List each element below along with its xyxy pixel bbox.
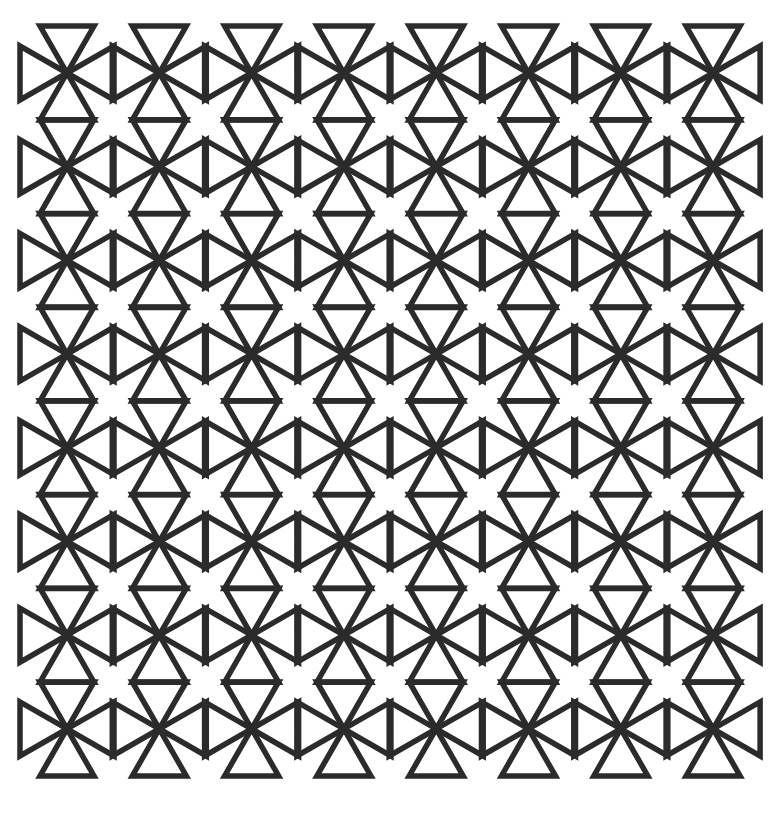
triangle-shape	[344, 608, 391, 662]
triangle-shape	[594, 682, 648, 729]
triangle-shape	[317, 260, 371, 307]
triangle-shape	[594, 401, 648, 448]
triangle-shape	[502, 635, 556, 682]
triangle-shape	[344, 702, 391, 756]
triangle-shape	[409, 167, 463, 214]
triangle-shape	[594, 167, 648, 214]
triangle-shape	[225, 401, 279, 448]
triangle-shape	[529, 46, 576, 100]
triangle-shape	[225, 495, 279, 542]
triangle-shape	[409, 401, 463, 448]
triangle-shape	[112, 702, 159, 756]
triangle-shape	[132, 213, 186, 260]
triangle-shape	[297, 421, 344, 475]
triangle-shape	[502, 682, 556, 729]
triangle-shape	[686, 167, 740, 214]
triangle-shape	[482, 702, 529, 756]
triangle-shape	[482, 233, 529, 287]
triangle-shape	[574, 46, 621, 100]
triangle-shape	[205, 702, 252, 756]
triangle-shape	[686, 635, 740, 682]
triangle-shape	[225, 167, 279, 214]
triangle-shape	[132, 729, 186, 776]
triangle-shape	[594, 354, 648, 401]
triangle-shape	[317, 682, 371, 729]
triangle-shape	[20, 327, 67, 381]
triangle-shape	[112, 515, 159, 569]
triangle-shape	[112, 608, 159, 662]
triangle-shape	[132, 73, 186, 120]
triangle-shape	[436, 702, 483, 756]
triangle-shape	[686, 401, 740, 448]
triangle-shape	[502, 307, 556, 354]
triangle-shape	[409, 213, 463, 260]
triangle-shape	[409, 307, 463, 354]
triangle-shape	[40, 635, 94, 682]
triangle-shape	[159, 608, 206, 662]
triangle-shape	[502, 495, 556, 542]
triangle-shape	[574, 140, 621, 194]
triangle-shape	[132, 260, 186, 307]
triangle-shape	[409, 635, 463, 682]
triangle-shape	[502, 729, 556, 776]
triangle-shape	[502, 354, 556, 401]
triangle-shape	[409, 542, 463, 589]
triangle-shape	[686, 682, 740, 729]
triangle-shape	[666, 46, 713, 100]
triangle-shape	[40, 448, 94, 495]
triangle-shape	[482, 421, 529, 475]
triangle-shape	[40, 401, 94, 448]
triangle-shape	[225, 26, 279, 73]
triangle-shape	[67, 515, 114, 569]
triangle-shape	[594, 307, 648, 354]
triangle-shape	[502, 120, 556, 167]
triangle-shape	[502, 73, 556, 120]
triangle-shape	[389, 46, 436, 100]
triangle-shape	[317, 26, 371, 73]
triangle-shape	[502, 588, 556, 635]
triangle-shape	[225, 448, 279, 495]
triangle-shape	[317, 495, 371, 542]
triangle-shape	[20, 46, 67, 100]
triangle-shape	[713, 608, 760, 662]
triangle-shape	[436, 515, 483, 569]
triangle-shape	[20, 140, 67, 194]
triangle-shape	[594, 213, 648, 260]
triangle-shape	[40, 542, 94, 589]
triangle-shape	[317, 167, 371, 214]
triangle-shape	[574, 515, 621, 569]
triangle-shape	[594, 542, 648, 589]
triangle-shape	[225, 635, 279, 682]
triangle-shape	[132, 307, 186, 354]
triangle-shape	[621, 421, 668, 475]
triangle-shape	[686, 213, 740, 260]
triangle-shape	[132, 26, 186, 73]
triangle-shape	[409, 354, 463, 401]
triangle-shape	[686, 542, 740, 589]
triangle-shape	[225, 73, 279, 120]
triangle-shape	[594, 260, 648, 307]
triangle-shape	[225, 213, 279, 260]
triangle-shape	[40, 682, 94, 729]
triangle-shape	[529, 327, 576, 381]
triangle-shape	[225, 542, 279, 589]
triangle-shape	[713, 515, 760, 569]
triangle-shape	[225, 260, 279, 307]
triangle-shape	[621, 702, 668, 756]
triangle-shape	[389, 421, 436, 475]
triangle-shape	[252, 46, 299, 100]
triangle-shape	[686, 26, 740, 73]
triangle-shape	[389, 515, 436, 569]
triangle-shape	[621, 140, 668, 194]
triangle-shape	[409, 682, 463, 729]
triangle-shape	[344, 515, 391, 569]
triangle-shape	[574, 233, 621, 287]
triangle-shape	[205, 608, 252, 662]
triangle-shape	[621, 515, 668, 569]
triangle-shape	[132, 167, 186, 214]
triangle-shape	[67, 421, 114, 475]
triangle-shape	[205, 46, 252, 100]
triangle-shape	[686, 354, 740, 401]
triangle-shape	[159, 515, 206, 569]
triangle-shape	[112, 46, 159, 100]
